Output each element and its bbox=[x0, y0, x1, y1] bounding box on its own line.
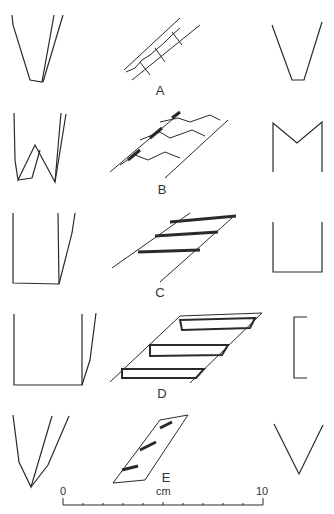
profile-right-a bbox=[272, 22, 322, 80]
row-label-b: B bbox=[152, 182, 172, 197]
scale-bar bbox=[63, 498, 263, 505]
row-label-a: A bbox=[150, 83, 170, 98]
row-label-e: E bbox=[156, 470, 176, 485]
cut-sketch-c bbox=[112, 213, 236, 282]
scale-unit-label: cm bbox=[156, 485, 171, 497]
profile-right-d bbox=[294, 317, 307, 378]
profile-left-b bbox=[14, 113, 66, 182]
row-label-c: C bbox=[150, 285, 170, 300]
profile-right-b bbox=[273, 122, 322, 172]
scale-start-label: 0 bbox=[60, 485, 66, 497]
cut-sketch-e bbox=[113, 415, 188, 483]
profile-left-d bbox=[14, 313, 96, 385]
profile-left-e bbox=[13, 415, 69, 487]
cut-sketch-d bbox=[110, 313, 262, 383]
scale-end-label: 10 bbox=[256, 485, 268, 497]
figure-canvas bbox=[0, 0, 334, 514]
row-label-d: D bbox=[152, 386, 172, 401]
profile-left-a bbox=[12, 15, 63, 82]
cut-sketch-b bbox=[110, 112, 228, 178]
profile-left-c bbox=[13, 213, 75, 284]
cut-sketch-a bbox=[124, 18, 200, 80]
profile-right-c bbox=[273, 222, 322, 272]
profile-right-e bbox=[274, 424, 323, 474]
